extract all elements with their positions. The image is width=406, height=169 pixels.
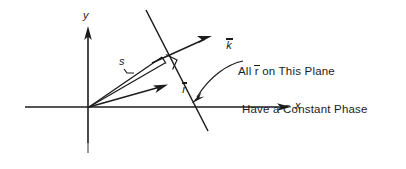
distance-s-label: s xyxy=(119,55,125,67)
plane-wave-diagram: y x k r s All r on This Plane Have a Con… xyxy=(0,0,406,169)
distance-label-leader xyxy=(124,69,134,73)
annotation-line-1-prefix: All xyxy=(238,65,255,77)
position-vector-r-label: r xyxy=(170,70,186,108)
annotation-line-1-suffix: on This Plane xyxy=(259,65,335,77)
annotation-leader-arrowhead xyxy=(192,92,205,103)
position-vector-r-line xyxy=(89,87,160,107)
annotation-leader-curve xyxy=(197,61,243,97)
annotation-line-1-vector: r xyxy=(255,64,259,78)
wave-vector-k-label-text: k xyxy=(226,38,232,51)
y-axis-label: y xyxy=(83,9,89,21)
annotation-line-1: All r on This Plane xyxy=(238,64,368,78)
annotation-line-2: Have a Constant Phase xyxy=(242,103,368,116)
wave-vector-k-line xyxy=(152,39,205,63)
distance-wedge-upper-edge xyxy=(89,57,162,107)
distance-wedge-lower-edge xyxy=(89,63,165,107)
constant-phase-annotation: All r on This Plane Have a Constant Phas… xyxy=(238,38,368,142)
wave-vector-k-label: k xyxy=(214,26,232,64)
position-vector-r-label-text: r xyxy=(182,82,186,95)
